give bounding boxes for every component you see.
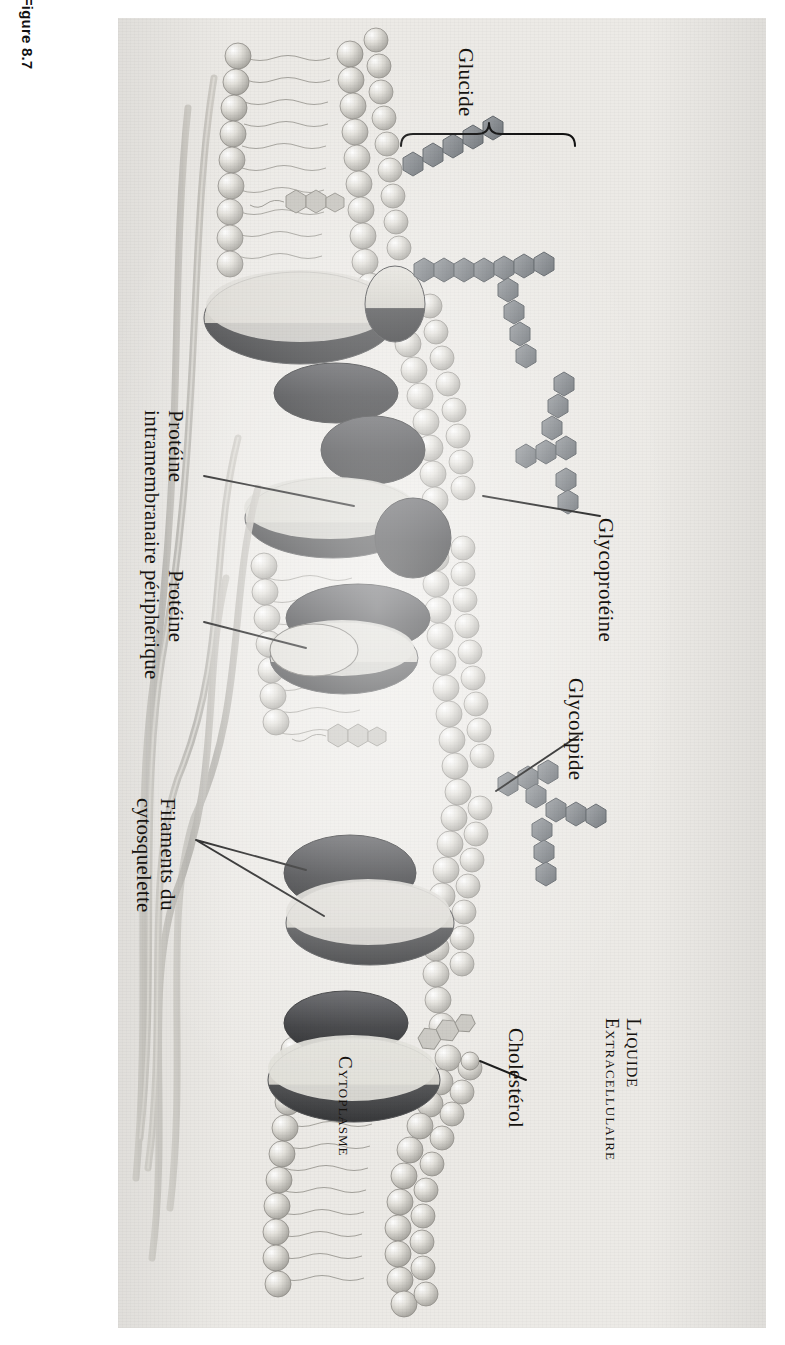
label-proteine-peripherique-line2: périphérique	[139, 570, 164, 680]
label-glycoproteine: Glycoprotéine	[593, 518, 618, 642]
glycoproteine-leader	[483, 496, 600, 516]
label-glucide: Glucide	[453, 48, 478, 117]
label-filaments-line2: cytosquelette	[131, 798, 156, 913]
peripheral-protein	[270, 624, 358, 676]
label-glycolipide: Glycolipide	[563, 678, 588, 780]
membrane-illustration	[118, 18, 766, 1328]
label-proteine-intramembranaire-line2: intramembranaire	[139, 410, 164, 564]
illustration-plate: Glucide Glycoprotéine Glycolipide Protéi…	[118, 18, 766, 1328]
label-liquide-extracellulaire-line2: Extracellulaire	[601, 1018, 622, 1161]
label-cholesterol: Cholestérol	[503, 1028, 528, 1128]
label-liquide-extracellulaire-line1: Liquide	[621, 1018, 646, 1088]
figure-page: Figure 8.7	[0, 0, 785, 1345]
label-proteine-intramembranaire-line1: Protéine	[163, 410, 188, 482]
label-filaments-line1: Filaments du	[155, 798, 180, 911]
label-cytoplasme: Cytoplasme	[334, 1056, 356, 1156]
label-proteine-peripherique-line1: Protéine	[163, 570, 188, 642]
figure-number: Figure 8.7	[19, 0, 36, 117]
